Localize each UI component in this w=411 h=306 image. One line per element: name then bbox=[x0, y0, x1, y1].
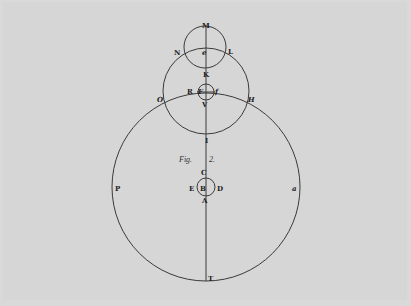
label-c: C bbox=[201, 168, 207, 177]
label-i: I bbox=[205, 136, 208, 145]
figure-caption-number: 2. bbox=[209, 155, 215, 164]
label-a-upper: A bbox=[201, 196, 208, 205]
label-t: T bbox=[208, 274, 214, 283]
label-k: K bbox=[203, 70, 210, 79]
label-f-upper: F bbox=[197, 87, 204, 96]
label-r: R bbox=[187, 87, 193, 96]
label-p: P bbox=[115, 184, 121, 193]
label-b: B bbox=[200, 184, 206, 193]
label-n: N bbox=[174, 48, 181, 57]
label-f-lower: f bbox=[214, 87, 220, 96]
astronomical-diagram: M N e L K R F f O H V I Fig. 2. C E B D … bbox=[0, 0, 411, 306]
label-l: L bbox=[228, 47, 233, 56]
label-e: e bbox=[202, 48, 207, 57]
label-a-lower: a bbox=[292, 184, 297, 193]
figure-caption-fig: Fig. bbox=[178, 155, 192, 164]
top-circle bbox=[184, 26, 226, 68]
label-v: V bbox=[201, 100, 208, 109]
label-h: H bbox=[247, 95, 255, 104]
label-d: D bbox=[217, 184, 223, 193]
label-e-upper: E bbox=[189, 184, 194, 193]
label-o: O bbox=[157, 95, 164, 104]
label-m: M bbox=[202, 21, 210, 30]
